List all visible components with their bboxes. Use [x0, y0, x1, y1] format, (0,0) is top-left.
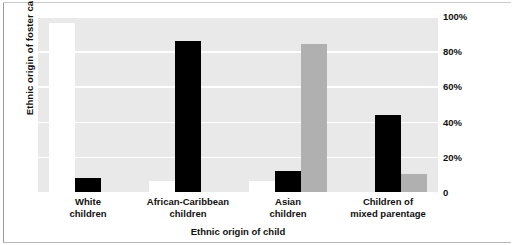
bar[interactable] [175, 41, 201, 192]
plot-area [38, 16, 438, 192]
figure-border-bottom [3, 242, 511, 243]
y-axis-title: Ethnic origin of foster carer [24, 0, 35, 147]
x-category-label-line: African-Caribbean [138, 196, 238, 208]
y-axis-tick-labels: 020%40%60%80%100% [443, 16, 507, 192]
y-tick-label: 80% [443, 46, 462, 57]
x-category-label-line: Asian [238, 196, 338, 208]
y-tick-label: 60% [443, 81, 462, 92]
bar-group [138, 16, 238, 192]
bar[interactable] [275, 171, 301, 192]
bar-groups [38, 16, 438, 192]
x-category-label-line: children [38, 208, 138, 220]
x-category-label-line: mixed parentage [338, 208, 438, 220]
bar[interactable] [249, 181, 275, 192]
bar-group [338, 16, 438, 192]
bar[interactable] [401, 174, 427, 192]
x-category-label-line: Children of [338, 196, 438, 208]
x-category-label: Children ofmixed parentage [338, 196, 438, 219]
x-axis-category-labels: WhitechildrenAfrican-CaribbeanchildrenAs… [38, 196, 438, 219]
bar[interactable] [75, 178, 101, 192]
bar[interactable] [149, 181, 175, 192]
x-axis-title: Ethnic origin of child [38, 226, 438, 237]
y-tick-label: 20% [443, 151, 462, 162]
gridline-0 [38, 192, 438, 194]
y-tick-label: 100% [443, 11, 467, 22]
x-category-label: Whitechildren [38, 196, 138, 219]
y-tick-label: 40% [443, 116, 462, 127]
bar[interactable] [375, 115, 401, 192]
bar[interactable] [49, 23, 75, 192]
bar[interactable] [301, 44, 327, 192]
figure-border-left [3, 2, 4, 243]
figure-border-top [3, 2, 511, 3]
y-tick-label: 0 [443, 187, 448, 198]
chart-figure: Ethnic origin of foster carer 020%40%60%… [0, 0, 514, 245]
x-category-label-line: children [238, 208, 338, 220]
x-category-label-line: children [138, 208, 238, 220]
bar-group [238, 16, 338, 192]
x-category-label-line: White [38, 196, 138, 208]
x-category-label: Asianchildren [238, 196, 338, 219]
bar-group [38, 16, 138, 192]
x-category-label: African-Caribbeanchildren [138, 196, 238, 219]
